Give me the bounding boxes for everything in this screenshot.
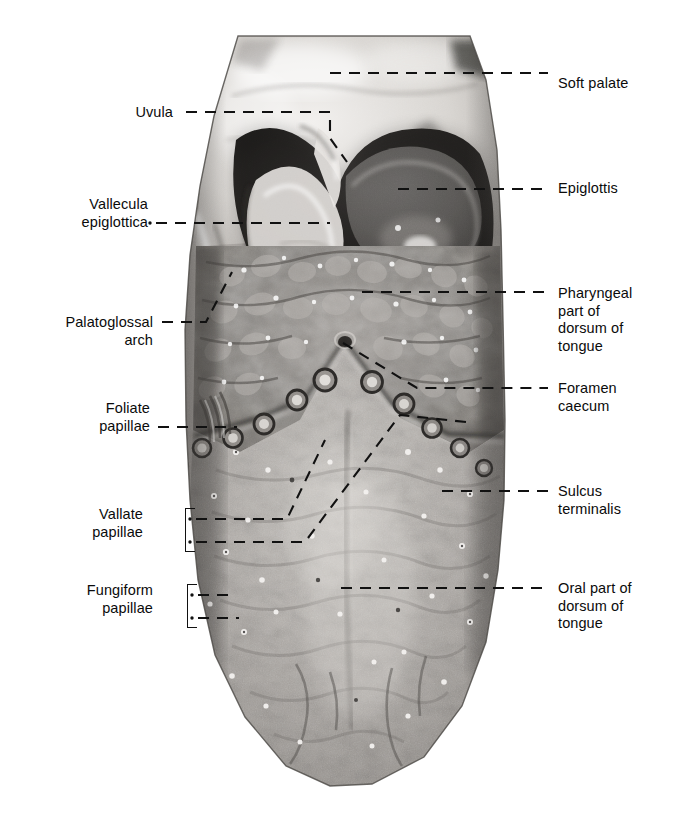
label-line: tongue	[558, 338, 632, 356]
film-grain	[180, 30, 512, 792]
label-vallecula-epiglottica: Valleculaepiglottica	[0, 196, 148, 231]
label-line: Vallecula	[0, 196, 148, 214]
label-foliate-papillae: Foliatepapillae	[0, 400, 150, 435]
label-line: Soft palate	[558, 75, 628, 93]
label-pharyngeal-part-of-dorsum-of-tongue: Pharyngealpart ofdorsum oftongue	[558, 285, 632, 355]
label-fungiform-papillae: Fungiformpapillae	[0, 582, 153, 617]
label-line: terminalis	[558, 501, 621, 519]
anatomy-figure: UvulaValleculaepiglotticaPalatoglossalar…	[0, 0, 685, 814]
label-line: Epiglottis	[558, 180, 618, 198]
label-line: Oral part of	[558, 580, 632, 598]
label-epiglottis: Epiglottis	[558, 180, 618, 198]
label-line: dorsum of	[558, 320, 632, 338]
label-uvula: Uvula	[0, 104, 173, 122]
label-line: Uvula	[0, 104, 173, 122]
label-line: Foramen	[558, 380, 617, 398]
label-line: tongue	[558, 615, 632, 633]
label-palatoglossal-arch: Palatoglossalarch	[0, 314, 153, 349]
label-line: caecum	[558, 398, 617, 416]
label-line: part of	[558, 303, 632, 321]
label-vallate-papillae: Vallatepapillae	[0, 506, 143, 541]
label-line: Fungiform	[0, 582, 153, 600]
label-oral-part-of-dorsum-of-tongue: Oral part ofdorsum oftongue	[558, 580, 632, 633]
label-line: Vallate	[0, 506, 143, 524]
label-soft-palate: Soft palate	[558, 75, 628, 93]
label-bracket-fungiform-papillae	[187, 584, 197, 628]
specimen-body	[172, 30, 512, 800]
label-sulcus-terminalis: Sulcusterminalis	[558, 483, 621, 518]
label-line: dorsum of	[558, 598, 632, 616]
label-line: Pharyngeal	[558, 285, 632, 303]
label-line: Palatoglossal	[0, 314, 153, 332]
label-bracket-vallate-papillae	[185, 508, 195, 552]
label-line: epiglottica	[0, 214, 148, 232]
label-line: papillae	[0, 418, 150, 436]
label-line: papillae	[0, 600, 153, 618]
label-foramen-caecum: Foramencaecum	[558, 380, 617, 415]
label-line: papillae	[0, 524, 143, 542]
label-line: Foliate	[0, 400, 150, 418]
label-line: arch	[0, 332, 153, 350]
label-line: Sulcus	[558, 483, 621, 501]
